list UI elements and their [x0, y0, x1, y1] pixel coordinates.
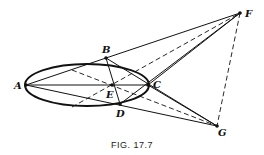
figure-caption: FIG. 17.7 [111, 140, 153, 150]
line-AD-G [26, 85, 217, 126]
dashed-FG [217, 13, 240, 126]
dashed-EG [72, 70, 217, 126]
dashed-EF [72, 13, 240, 107]
line-CG [148, 85, 217, 126]
label-F: F [244, 8, 253, 19]
label-E: E [105, 89, 114, 100]
line-CF [148, 13, 240, 85]
label-B: B [101, 44, 110, 55]
line-BF [106, 13, 240, 58]
label-D: D [115, 108, 125, 119]
label-A: A [13, 80, 22, 91]
label-C: C [153, 79, 161, 90]
geometry-diagram: A B C D E F G FIG. 17.7 [0, 0, 264, 155]
label-G: G [218, 127, 227, 138]
